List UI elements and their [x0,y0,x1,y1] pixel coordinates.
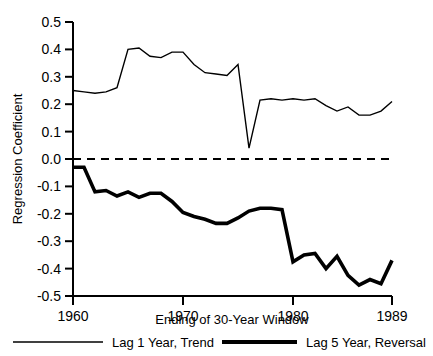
y-tick-label: 0.5 [42,14,62,30]
y-axis-tick-marks [65,22,73,296]
chart-figure: 0.50.40.30.20.10.0-0.1-0.2-0.3-0.4-0.5 1… [0,0,433,356]
y-tick-label: 0.3 [42,69,62,85]
x-axis-title: Ending of 30-Year Window [155,312,309,327]
legend-label-lag-1-year-trend: Lag 1 Year, Trend [112,335,214,350]
y-tick-label: -0.3 [37,233,61,249]
y-tick-label: -0.5 [37,288,61,304]
y-tick-label: 0.0 [42,151,62,167]
y-tick-label: 0.1 [42,124,62,140]
series-line-lag-5-year-reversal [73,167,392,285]
y-axis-title: Regression Coefficient [10,93,25,224]
x-axis-tick-marks [73,296,392,305]
x-tick-label: 1989 [376,308,407,324]
series-line-lag-1-year-trend [73,48,392,148]
regression-coefficient-line-chart: 0.50.40.30.20.10.0-0.1-0.2-0.3-0.4-0.5 1… [0,0,433,356]
y-tick-label: -0.4 [37,261,61,277]
x-tick-label: 1960 [57,308,88,324]
y-tick-label: 0.4 [42,41,62,57]
y-axis-tick-labels: 0.50.40.30.20.10.0-0.1-0.2-0.3-0.4-0.5 [37,14,61,304]
y-tick-label: -0.2 [37,206,61,222]
chart-legend: Lag 1 Year, Trend Lag 5 Year, Reversal [13,335,426,350]
legend-label-lag-5-year-reversal: Lag 5 Year, Reversal [306,335,426,350]
y-tick-label: 0.2 [42,96,62,112]
y-tick-label: -0.1 [37,178,61,194]
